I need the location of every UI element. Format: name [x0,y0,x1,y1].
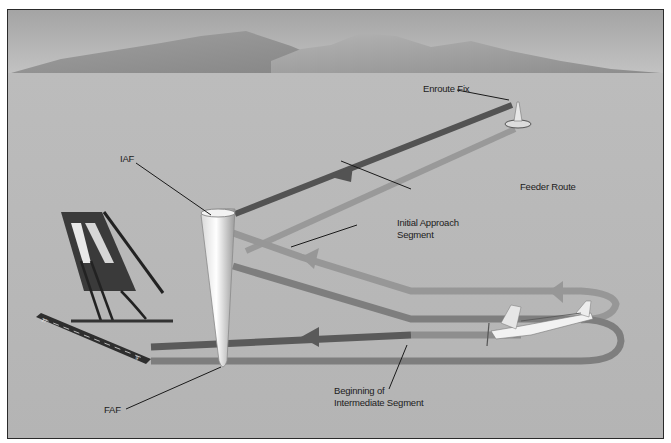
label-intermediate-2: Intermediate Segment [334,397,423,408]
label-intermediate-1: Beginning of [334,385,384,396]
label-feeder-route: Feeder Route [520,181,576,192]
approach-scene: 27 9 [8,10,664,439]
diagram-frame: 27 9 [7,9,664,439]
label-enroute-fix: Enroute Fix [423,83,469,94]
label-initial-approach-1: Initial Approach [397,217,459,228]
label-faf: FAF [104,404,121,415]
label-initial-approach-2: Segment [397,229,434,240]
label-iaf: IAF [120,153,134,164]
